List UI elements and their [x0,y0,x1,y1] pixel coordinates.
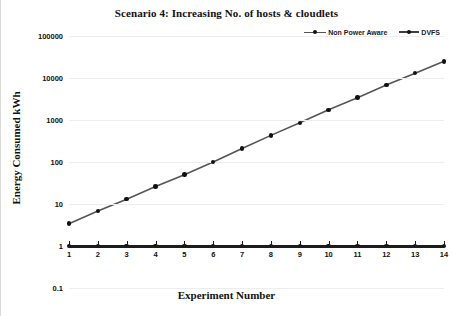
x-axis-tick [300,241,301,246]
x-axis-tick-label: 14 [440,250,448,259]
legend-label-dvfs: DVFS [421,29,440,36]
x-axis-tick-label: 5 [182,250,186,259]
x-axis-tick-label: 10 [324,250,332,259]
x-axis-tick-label: 7 [240,250,244,259]
x-axis-tick [242,241,243,246]
x-axis-tick [69,241,70,246]
x-axis-tick-label: 11 [353,250,361,259]
x-axis-tick [329,241,330,246]
chart-container: Scenario 4: Increasing No. of hosts & cl… [0,0,452,316]
y-axis-tick-label: 100 [50,158,63,167]
x-axis-tick-label: 9 [298,250,302,259]
x-axis-tick [444,241,445,246]
legend-label-non-power-aware: Non Power Aware [328,29,387,36]
y-axis-tick-label: 1000 [46,116,63,125]
y-axis-tick-label: 10 [55,200,63,209]
x-axis-tick [213,241,214,246]
x-axis: 1234567891011121314 [69,36,444,296]
x-axis-tick [184,241,185,246]
x-axis-tick [271,241,272,246]
legend-line-marker-icon [399,28,419,36]
x-axis-line [69,246,444,248]
x-axis-tick-label: 6 [211,250,215,259]
x-axis-tick [98,241,99,246]
x-axis-tick [386,241,387,246]
y-axis-tick-labels: 1000001000010001001010.1 [1,36,63,288]
chart-title: Scenario 4: Increasing No. of hosts & cl… [1,7,452,19]
y-axis-tick-label: 10000 [42,74,63,83]
x-axis-tick-label: 13 [411,250,419,259]
legend-item-dvfs[interactable]: DVFS [399,28,440,36]
x-axis-tick [127,241,128,246]
legend-item-non-power-aware[interactable]: Non Power Aware [304,28,387,36]
x-axis-tick-label: 2 [96,250,100,259]
x-axis-tick [357,241,358,246]
y-axis-tick-label: 1 [59,242,63,251]
chart-legend: Non Power Aware DVFS [304,28,440,36]
x-axis-tick-label: 4 [153,250,157,259]
x-axis-tick-label: 3 [125,250,129,259]
x-axis-tick-label: 12 [382,250,390,259]
x-axis-tick-label: 1 [67,250,71,259]
x-axis-tick-label: 8 [269,250,273,259]
x-axis-title: Experiment Number [1,289,452,301]
x-axis-tick [415,241,416,246]
y-axis-tick-label: 100000 [38,32,63,41]
legend-line-marker-icon [304,28,326,36]
x-axis-tick [156,241,157,246]
